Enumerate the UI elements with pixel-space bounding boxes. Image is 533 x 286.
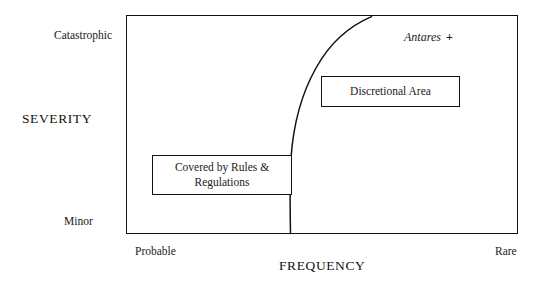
y-axis-label-catastrophic: Catastrophic [54,30,112,42]
x-axis-label-probable: Probable [135,246,176,258]
y-axis-label-minor: Minor [64,216,93,228]
region-label-box-covered-by-rules: Covered by Rules &Regulations [152,155,292,195]
region-label-box-discretional-area: Discretional Area [321,76,460,107]
y-axis-title: SEVERITY [22,111,92,127]
risk-matrix-figure: Catastrophic Minor Probable Rare SEVERIT… [0,0,533,286]
region-label-line-2: Regulations [195,176,250,188]
region-label-line-1: Covered by Rules & [175,161,269,173]
x-axis-title: FREQUENCY [279,258,365,274]
x-axis-label-rare: Rare [495,246,517,258]
plot-frame [126,15,518,234]
annotation-text-antares: Antares [404,30,441,44]
plus-marker-icon: + [446,30,453,44]
region-label-text-covered-by-rules: Covered by Rules &Regulations [159,160,285,190]
region-label-text-discretional-area: Discretional Area [350,84,431,99]
data-point-annotation-antares: Antares+ [404,30,453,45]
